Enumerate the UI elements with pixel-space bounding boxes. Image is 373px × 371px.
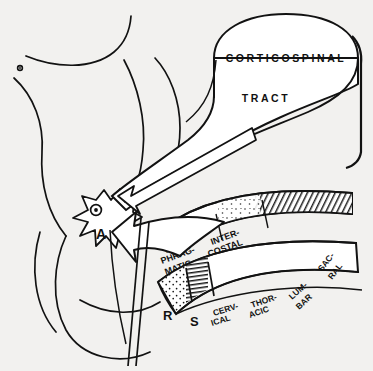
tract-label-line1: CORTICOSPINAL <box>226 52 347 64</box>
anatomical-diagram: A CORTICOSPINAL TRACT <box>0 0 373 371</box>
tract-label-line2: TRACT <box>242 92 291 104</box>
nucleus-core-icon <box>94 208 98 212</box>
gray-matter-marker-label: A <box>96 226 106 242</box>
lower-band-marker-R: R <box>163 308 173 323</box>
landmark-dot-core-icon <box>19 67 21 69</box>
lower-band-marker-S: S <box>190 314 199 329</box>
